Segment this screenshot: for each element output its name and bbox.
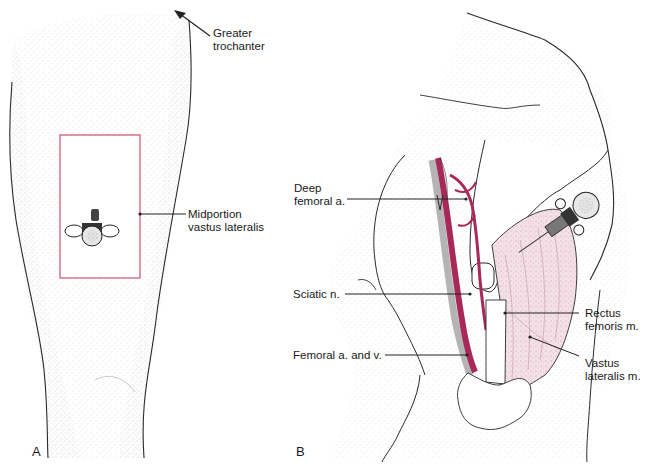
vastus-lateralis-injection-figure: Greater trochanter Midportion vastus lat… <box>0 0 651 468</box>
illustration-canvas <box>0 0 651 468</box>
label-rectus-femoris: Rectus femoris m. <box>585 307 639 333</box>
injection-site-rectangle <box>60 135 140 278</box>
panel-b-thigh-cross-section <box>328 13 629 462</box>
panel-b-letter: B <box>296 444 305 459</box>
panel-a-letter: A <box>32 444 41 459</box>
label-sciatic-nerve: Sciatic n. <box>293 288 340 301</box>
label-femoral-artery-vein: Femoral a. and v. <box>293 349 382 362</box>
label-deep-femoral-artery: Deep femoral a. <box>294 182 345 208</box>
label-vastus-lateralis-m: Vastus lateralis m. <box>585 357 641 383</box>
panel-a-thigh <box>10 10 210 458</box>
label-midportion-vastus-lateralis: Midportion vastus lateralis <box>188 208 264 234</box>
label-greater-trochanter: Greater trochanter <box>213 27 265 53</box>
